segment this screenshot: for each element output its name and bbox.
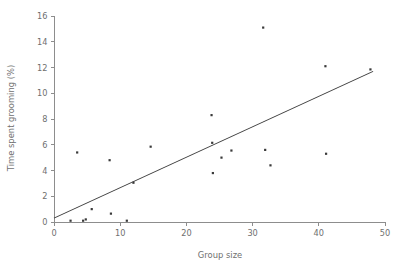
data-point [324, 65, 326, 67]
data-point [212, 172, 214, 174]
data-point [85, 218, 87, 220]
data-point [76, 151, 78, 153]
data-point [211, 142, 213, 144]
data-point [91, 208, 93, 210]
data-point [369, 68, 371, 70]
regression-line-group [54, 71, 373, 218]
y-tick-label: 2 [42, 191, 47, 201]
y-tick-label: 6 [42, 140, 47, 150]
y-axis-title: Time spent grooming (%) [6, 65, 16, 172]
data-point [262, 26, 264, 28]
x-tick-label: 50 [380, 228, 390, 238]
regression-line [54, 71, 373, 218]
data-point [126, 220, 128, 222]
data-point [264, 149, 266, 151]
x-tick-label: 30 [247, 228, 257, 238]
y-tick-label: 14 [37, 37, 47, 47]
plot-canvas: 0246810121416 01020304050 Group size Tim… [0, 0, 405, 266]
x-tick-label: 40 [314, 228, 324, 238]
data-point [325, 153, 327, 155]
y-tick-label: 16 [37, 11, 47, 21]
data-point [110, 213, 112, 215]
y-axis-ticks: 0246810121416 [37, 11, 54, 227]
data-points-group [69, 26, 371, 221]
x-tick-label: 20 [181, 228, 191, 238]
data-point [132, 182, 134, 184]
x-axis-ticks: 01020304050 [51, 222, 390, 238]
y-tick-label: 8 [42, 114, 47, 124]
y-tick-label: 0 [42, 217, 47, 227]
chart-axes [54, 16, 385, 222]
data-point [269, 164, 271, 166]
data-point [82, 220, 84, 222]
x-axis-title: Group size [198, 250, 242, 260]
scatter-chart-figure: 0246810121416 01020304050 Group size Tim… [0, 0, 405, 266]
y-tick-label: 10 [37, 88, 47, 98]
y-tick-label: 4 [42, 166, 47, 176]
data-point [69, 220, 71, 222]
data-point [230, 149, 232, 151]
data-point [150, 146, 152, 148]
data-point [210, 114, 212, 116]
data-point [109, 159, 111, 161]
x-tick-label: 10 [115, 228, 125, 238]
x-tick-label: 0 [51, 228, 56, 238]
y-tick-label: 12 [37, 63, 47, 73]
data-point [220, 157, 222, 159]
